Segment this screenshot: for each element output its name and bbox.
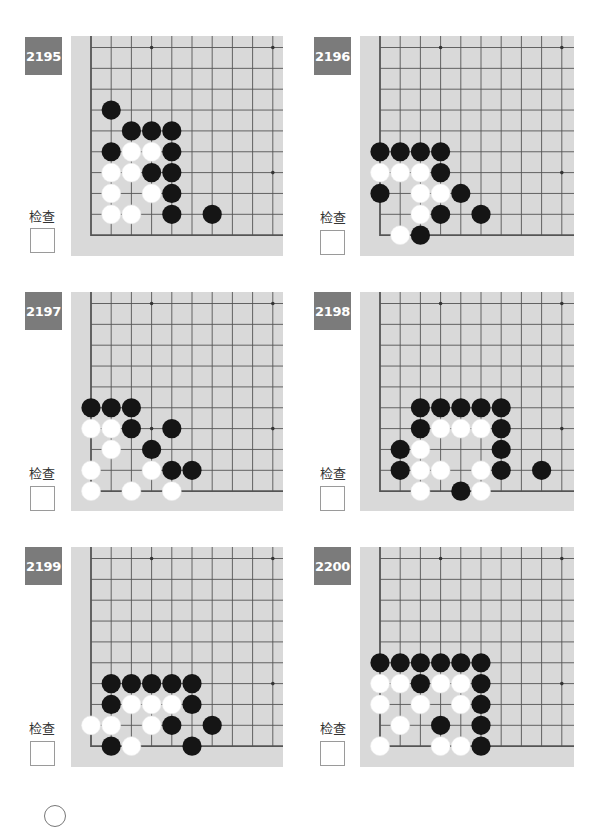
black-stone (451, 653, 470, 672)
black-stone (471, 653, 490, 672)
check-box[interactable] (320, 741, 345, 766)
black-stone (431, 205, 450, 224)
go-board[interactable] (71, 36, 283, 256)
star-point-icon (271, 46, 275, 50)
go-board[interactable] (71, 547, 283, 767)
white-stone (102, 184, 121, 203)
star-point-icon (271, 171, 275, 175)
black-stone (411, 419, 430, 438)
black-stone (102, 398, 121, 417)
black-stone (471, 205, 490, 224)
check-box[interactable] (320, 230, 345, 255)
check-box[interactable] (30, 741, 55, 766)
check-label: 检查 (27, 718, 57, 737)
black-stone (492, 461, 511, 480)
white-stone (82, 716, 101, 735)
black-stone (451, 482, 470, 501)
go-board[interactable] (360, 36, 574, 256)
problem-number-tag: 2197 (25, 292, 62, 330)
black-stone (102, 674, 121, 693)
go-board[interactable] (360, 547, 574, 767)
black-stone (451, 398, 470, 417)
black-stone (203, 716, 222, 735)
black-stone (142, 674, 161, 693)
white-stone (431, 419, 450, 438)
white-stone (411, 205, 430, 224)
star-point-icon (439, 302, 443, 306)
black-stone (162, 184, 181, 203)
black-stone (431, 716, 450, 735)
check-label: 检查 (318, 718, 348, 737)
black-stone (532, 461, 551, 480)
black-stone (391, 653, 410, 672)
black-stone (142, 121, 161, 140)
black-stone (431, 142, 450, 161)
black-stone (471, 398, 490, 417)
white-stone (142, 716, 161, 735)
white-stone (411, 163, 430, 182)
black-stone (162, 461, 181, 480)
black-stone (471, 695, 490, 714)
black-stone (81, 398, 100, 417)
white-stone (122, 163, 141, 182)
problem-number-tag: 2195 (25, 37, 62, 75)
black-stone (370, 184, 389, 203)
go-board[interactable] (360, 292, 574, 511)
black-stone (492, 419, 511, 438)
white-stone (371, 695, 390, 714)
black-stone (471, 674, 490, 693)
white-stone (391, 674, 410, 693)
go-board[interactable] (71, 292, 283, 511)
white-stone (451, 419, 470, 438)
black-stone (411, 142, 430, 161)
star-point-icon (150, 557, 154, 561)
white-stone (122, 737, 141, 756)
white-stone (472, 419, 491, 438)
white-stone (122, 482, 141, 501)
star-point-icon (271, 302, 275, 306)
star-point-icon (439, 46, 443, 50)
white-stone (102, 205, 121, 224)
black-stone (162, 142, 181, 161)
black-stone (142, 440, 161, 459)
black-stone (431, 398, 450, 417)
white-stone (411, 695, 430, 714)
black-stone (492, 398, 511, 417)
white-stone (431, 461, 450, 480)
white-stone (102, 716, 121, 735)
problem-number-tag: 2196 (314, 37, 351, 75)
star-point-icon (271, 427, 275, 431)
black-stone (370, 142, 389, 161)
white-stone (102, 419, 121, 438)
white-stone (122, 142, 141, 161)
check-box[interactable] (30, 486, 55, 511)
black-stone (411, 226, 430, 245)
black-stone (471, 716, 490, 735)
white-stone (451, 674, 470, 693)
white-stone (371, 674, 390, 693)
black-stone (451, 184, 470, 203)
star-point-icon (560, 557, 564, 561)
check-label: 检查 (318, 207, 348, 226)
black-stone (203, 205, 222, 224)
white-stone (142, 184, 161, 203)
black-stone (122, 674, 141, 693)
black-stone (122, 121, 141, 140)
black-stone (102, 737, 121, 756)
check-box[interactable] (320, 486, 345, 511)
white-stone (451, 695, 470, 714)
star-point-icon (150, 46, 154, 50)
black-stone (431, 163, 450, 182)
black-stone (102, 142, 121, 161)
white-stone (82, 419, 101, 438)
white-stone (142, 461, 161, 480)
black-stone (182, 695, 201, 714)
black-stone (411, 674, 430, 693)
black-stone (142, 163, 161, 182)
check-box[interactable] (30, 228, 55, 253)
white-stone (411, 482, 430, 501)
black-stone (391, 142, 410, 161)
white-stone (82, 482, 101, 501)
star-point-icon (150, 427, 154, 431)
star-point-icon (150, 302, 154, 306)
